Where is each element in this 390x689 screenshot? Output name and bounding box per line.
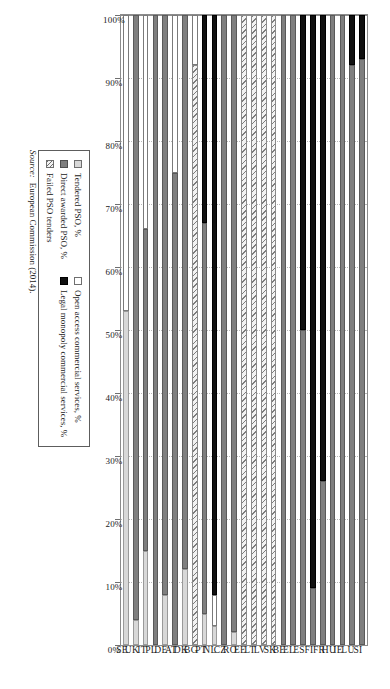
bar-row: [162, 15, 168, 645]
axis-tick-label: 40%: [105, 393, 122, 403]
stacked-bar: [153, 15, 159, 645]
category-axis: SILUIEHUFRFIESELBESKLVLTEEROCZNLPTBGDKAT…: [120, 648, 368, 670]
bar-row: [320, 15, 326, 645]
bar-segment-direct: [330, 15, 336, 645]
legend-column-left: Tendered PSO, %Direct awarded PSO, %Fail…: [45, 160, 83, 259]
stacked-bar: [310, 15, 316, 645]
stacked-bar: [133, 15, 139, 645]
source-text: European Commission (2014).: [28, 183, 38, 294]
bar-segment-open: [212, 595, 218, 627]
stacked-bar: [261, 15, 267, 645]
legend-label: Direct awarded PSO, %: [59, 173, 69, 259]
bar-segment-direct: [300, 330, 306, 645]
category-label-SE: SE: [116, 645, 128, 655]
stacked-bar: [172, 15, 178, 645]
bar-segment-monopoly: [212, 15, 218, 595]
category-label-FR: FR: [313, 645, 325, 655]
legend-swatch-tendered: [74, 160, 82, 168]
stacked-bar: [162, 15, 168, 645]
bar-segment-tendered: [231, 632, 237, 645]
stacked-bar: [231, 15, 237, 645]
bar-segment-failed: [241, 15, 247, 645]
legend-label: Legal monopoly commercial services, %: [59, 290, 69, 437]
bar-segment-direct: [133, 15, 139, 620]
bar-segment-failed: [261, 15, 267, 645]
bar-segment-failed: [251, 15, 257, 645]
bar-segment-tendered: [182, 569, 188, 645]
category-label-FI: FI: [304, 645, 313, 655]
legend-swatch-open: [74, 277, 82, 285]
bar-row: [221, 15, 227, 645]
bar-segment-open: [172, 15, 178, 173]
axis-tick-label: 70%: [105, 204, 122, 214]
bar-row: [330, 15, 336, 645]
bar-segment-direct: [340, 15, 346, 645]
bar-segment-open: [123, 15, 129, 311]
bar-row: [212, 15, 218, 645]
bar-segment-monopoly: [202, 15, 208, 223]
chart-legend: Tendered PSO, %Direct awarded PSO, %Fail…: [38, 150, 90, 447]
legend-label: Tendered PSO, %: [73, 173, 83, 237]
legend-swatch-direct: [60, 160, 68, 168]
bar-row: [202, 15, 208, 645]
legend-item: Failed PSO tenders: [45, 160, 55, 259]
bar-segment-monopoly: [349, 15, 355, 65]
stacked-bar: [281, 15, 287, 645]
source-note: Source:European Commission (2014).: [28, 150, 38, 293]
bar-segment-open: [143, 15, 149, 229]
bar-row: [290, 15, 296, 645]
bar-segment-monopoly: [310, 15, 316, 588]
legend-swatch-failed: [46, 160, 54, 168]
bar-row: [340, 15, 346, 645]
stacked-bar: [251, 15, 257, 645]
bar-segment-direct: [231, 15, 237, 632]
bar-row: [300, 15, 306, 645]
axis-tick-label: 10%: [105, 582, 122, 592]
plot-area: [120, 14, 368, 646]
bar-segment-failed: [271, 15, 277, 645]
legend-item: Tendered PSO, %: [73, 160, 83, 259]
bar-segment-monopoly: [300, 15, 306, 330]
bar-row: [241, 15, 247, 645]
axis-tick-label: 90%: [105, 78, 122, 88]
category-label-PL: PL: [146, 645, 158, 655]
rotated-chart-stage: 100%90%80%70%60%50%40%30%20%10%0% SILUIE…: [0, 0, 390, 689]
bar-segment-tendered: [162, 595, 168, 645]
stacked-bar: [330, 15, 336, 645]
axis-tick-label: 50%: [105, 330, 122, 340]
bar-row: [123, 15, 129, 645]
bar-row: [310, 15, 316, 645]
stacked-bar: [320, 15, 326, 645]
axis-tick-label: 60%: [105, 267, 122, 277]
axis-tick-label: 100%: [103, 15, 125, 25]
bar-row: [143, 15, 149, 645]
source-prefix: Source:: [28, 150, 38, 178]
bar-row: [359, 15, 365, 645]
stacked-bar: [349, 15, 355, 645]
bar-segment-direct: [143, 229, 149, 550]
bar-segment-direct: [202, 223, 208, 614]
bar-row: [251, 15, 257, 645]
stacked-bar: [271, 15, 277, 645]
stacked-bar: [290, 15, 296, 645]
bar-segment-direct: [172, 173, 178, 646]
bar-segment-tendered: [212, 626, 218, 645]
stacked-bar: [212, 15, 218, 645]
bar-row: [192, 15, 198, 645]
bar-segment-monopoly: [320, 15, 326, 481]
category-label-SI: SI: [354, 645, 363, 655]
category-label-LU: LU: [342, 645, 355, 655]
bar-row: [281, 15, 287, 645]
legend-item: Direct awarded PSO, %: [59, 160, 69, 259]
stacked-bar: [359, 15, 365, 645]
legend-swatch-monopoly: [60, 277, 68, 285]
stacked-bar: [202, 15, 208, 645]
bar-row: [182, 15, 188, 645]
stacked-bar: [300, 15, 306, 645]
value-axis: 100%90%80%70%60%50%40%30%20%10%0%: [104, 14, 120, 646]
stacked-bar: [123, 15, 129, 645]
bar-row: [153, 15, 159, 645]
bar-segment-tendered: [123, 311, 129, 645]
legend-item: Open access commercial services, %: [73, 277, 83, 437]
bar-row: [349, 15, 355, 645]
